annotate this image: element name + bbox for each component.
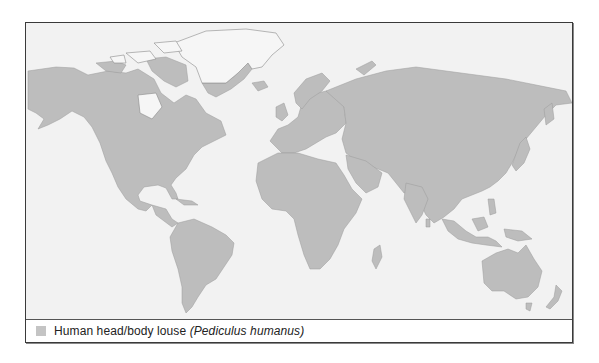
region-sri-lanka: [426, 219, 430, 227]
region-central-america: [152, 205, 178, 227]
region-madagascar: [372, 245, 382, 269]
map-legend: Human head/body louse (Pediculus humanus…: [26, 320, 572, 342]
world-map-svg: [26, 23, 572, 319]
region-africa: [256, 153, 362, 269]
legend-swatch-louse-range: [36, 326, 46, 336]
region-novaya-zemlya: [356, 61, 376, 75]
region-borneo: [472, 217, 488, 231]
region-southeast-asia: [442, 219, 502, 247]
region-british-isles: [276, 103, 288, 121]
region-iceland: [252, 81, 268, 91]
region-australia: [482, 245, 542, 299]
legend-label: Human head/body louse (Pediculus humanus…: [54, 324, 304, 338]
region-asia: [326, 67, 572, 223]
world-map: [26, 23, 572, 320]
region-south-america: [170, 219, 234, 313]
region-north-america: [28, 67, 226, 211]
legend-common-name: Human head/body louse: [54, 324, 186, 338]
legend-scientific-name: (Pediculus humanus): [190, 324, 305, 338]
region-philippines: [488, 199, 496, 215]
region-greenland-interior: [174, 29, 284, 83]
region-cuba: [176, 199, 198, 205]
map-figure: Human head/body louse (Pediculus humanus…: [25, 22, 573, 343]
region-tasmania: [526, 303, 532, 311]
region-new-zealand: [546, 285, 562, 309]
region-new-guinea: [504, 229, 532, 241]
